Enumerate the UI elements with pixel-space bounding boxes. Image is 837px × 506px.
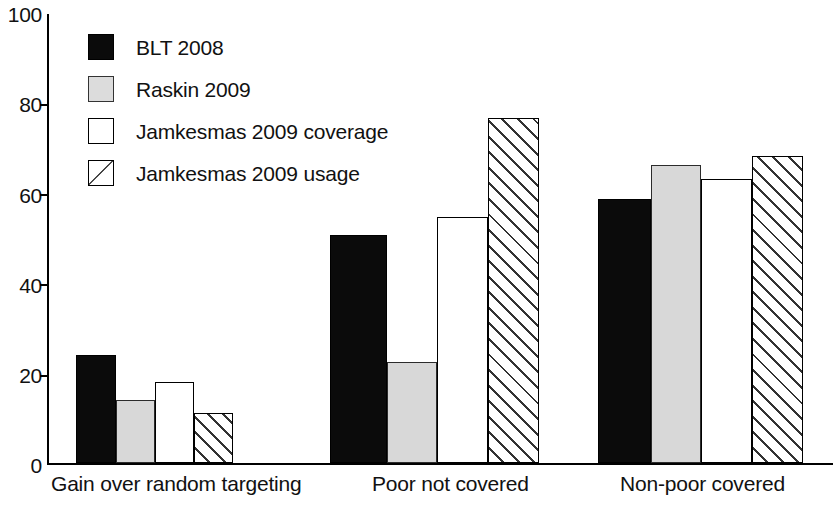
legend-item-jamkesmas-usage: Jamkesmas 2009 usage <box>88 152 388 194</box>
legend-item-jamkesmas-coverage: Jamkesmas 2009 coverage <box>88 110 388 152</box>
y-axis-tick-label-0: 0 <box>0 455 42 476</box>
legend-swatch-hatch-icon <box>88 160 114 186</box>
bar-non-poor-covered-blt-2008 <box>598 199 651 463</box>
legend-label-blt-2008: BLT 2008 <box>136 37 224 58</box>
bar-poor-not-covered-jamkesmas-coverage <box>437 217 488 463</box>
bar-poor-not-covered-blt-2008 <box>330 235 387 463</box>
legend-label-jamkesmas-usage: Jamkesmas 2009 usage <box>136 163 360 184</box>
bar-non-poor-covered-jamkesmas-usage <box>752 156 803 463</box>
bar-poor-not-covered-raskin-2009 <box>387 362 437 463</box>
y-axis-tick-label-20: 20 <box>0 365 42 386</box>
legend-swatch-solid-icon <box>88 34 114 60</box>
y-axis-tick-label-60: 60 <box>0 185 42 206</box>
bar-gain-jamkesmas-usage <box>194 413 233 463</box>
y-axis-tick-label-80: 80 <box>0 94 42 115</box>
bar-poor-not-covered-jamkesmas-usage <box>488 118 539 463</box>
x-axis-label-poor-not-covered: Poor not covered <box>372 472 529 495</box>
legend-item-blt-2008: BLT 2008 <box>88 26 388 68</box>
bar-non-poor-covered-jamkesmas-coverage <box>701 179 752 463</box>
y-axis-tick-label-100: 100 <box>0 4 42 25</box>
y-axis-tick-label-40: 40 <box>0 275 42 296</box>
bar-chart: 100 80 60 40 20 0 Gain over random targe… <box>0 0 837 506</box>
y-axis-tick-20 <box>40 375 49 377</box>
legend-label-raskin-2009: Raskin 2009 <box>136 79 251 100</box>
bar-gain-blt-2008 <box>76 355 116 463</box>
x-axis-label-gain-over-random-targeting: Gain over random targeting <box>51 472 301 495</box>
bar-gain-jamkesmas-coverage <box>155 382 194 463</box>
legend-swatch-gray-icon <box>88 76 114 102</box>
y-axis-tick-40 <box>40 284 49 286</box>
y-axis-tick-60 <box>40 194 49 196</box>
legend-swatch-open-icon <box>88 118 114 144</box>
legend: BLT 2008 Raskin 2009 Jamkesmas 2009 cove… <box>88 26 388 194</box>
y-axis-tick-80 <box>40 104 49 106</box>
bar-non-poor-covered-raskin-2009 <box>651 165 701 463</box>
bar-gain-raskin-2009 <box>116 400 155 463</box>
x-axis-label-non-poor-covered: Non-poor covered <box>620 472 785 495</box>
legend-item-raskin-2009: Raskin 2009 <box>88 68 388 110</box>
legend-label-jamkesmas-coverage: Jamkesmas 2009 coverage <box>136 121 388 142</box>
